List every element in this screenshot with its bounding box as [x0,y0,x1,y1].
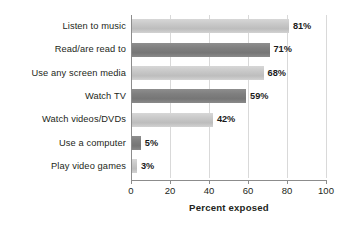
bar-row: Watch videos/DVDs 42% [131,108,326,131]
x-tick-label: 40 [204,185,215,196]
x-tick-label: 0 [128,185,133,196]
x-tick-label: 20 [165,185,176,196]
category-label: Use a computer [59,132,126,155]
bar [131,43,270,57]
bar [131,136,141,150]
category-label: Watch TV [85,85,126,108]
value-label: 5% [141,132,158,155]
value-label: 68% [264,62,286,85]
category-label: Play video games [51,155,126,178]
y-axis-line [131,15,132,181]
category-label: Listen to music [62,15,126,38]
value-label: 71% [270,38,292,61]
x-tick [287,180,288,184]
value-label: 81% [289,15,311,38]
x-tick [248,180,249,184]
value-label: 59% [246,85,268,108]
bar [131,66,264,80]
bar-rows: Listen to music 81% Read/are read to 71%… [131,15,326,178]
value-label: 42% [213,108,235,131]
category-label: Read/are read to [55,38,126,61]
value-label: 3% [137,155,154,178]
x-tick-label: 60 [243,185,254,196]
bar-row: Use a computer 5% [131,132,326,155]
bar-row: Read/are read to 71% [131,38,326,61]
bar-row: Listen to music 81% [131,15,326,38]
x-tick-label: 100 [318,185,334,196]
x-tick-label: 80 [282,185,293,196]
category-label: Use any screen media [32,62,127,85]
bar-chart: Listen to music 81% Read/are read to 71%… [0,0,352,226]
x-tick [209,180,210,184]
x-tick [170,180,171,184]
gridline-100 [326,15,327,178]
bar-row: Watch TV 59% [131,85,326,108]
x-axis-line [131,180,327,181]
bar-row: Play video games 3% [131,155,326,178]
bar [131,113,213,127]
x-axis-title: Percent exposed [131,202,327,213]
x-tick [131,180,132,184]
plot-area: Listen to music 81% Read/are read to 71%… [131,15,326,178]
bar [131,19,289,33]
x-tick [326,180,327,184]
bar-row: Use any screen media 68% [131,62,326,85]
bar [131,89,246,103]
category-label: Watch videos/DVDs [42,108,126,131]
